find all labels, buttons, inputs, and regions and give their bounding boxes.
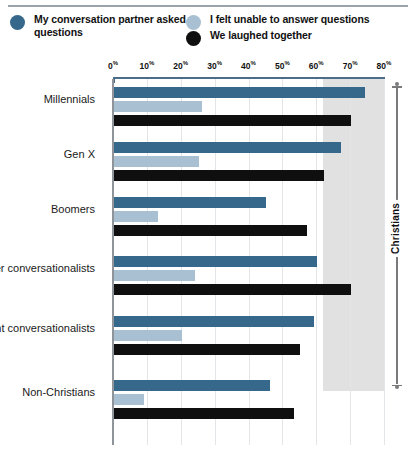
x-tick-label-40: 40% <box>241 60 256 71</box>
x-tick-label-10: 10% <box>139 60 154 71</box>
category-label-non-christians: Non-Christians <box>0 386 95 399</box>
category-label-boomers: Boomers <box>0 203 95 216</box>
x-tick-label-60: 60% <box>309 60 324 71</box>
legend-column-right: I felt unable to answer questions We lau… <box>186 13 411 44</box>
bar-stack <box>114 142 341 181</box>
bracket-dot-top-icon <box>395 82 399 86</box>
bar-asked-questions <box>114 142 341 153</box>
bar-laughed-together <box>114 408 294 419</box>
bar-unable-to-answer <box>114 330 182 341</box>
bar-chart-plot: 0%10%20%30%40%50%60%70%80% MillennialsGe… <box>0 60 413 451</box>
category-label-reluctant-conversationalists: Reluctant conversationalists <box>0 322 95 335</box>
legend-label-conversation-partner-asked: My conversation partner asked questions <box>34 13 190 38</box>
bar-group: Eager conversationalists <box>0 256 413 301</box>
x-tick-label-70: 70% <box>343 60 358 71</box>
bar-stack <box>114 197 307 236</box>
bar-unable-to-answer <box>114 101 202 112</box>
bar-laughed-together <box>114 284 351 295</box>
bar-unable-to-answer <box>114 270 195 281</box>
x-tick-label-30: 30% <box>207 60 222 71</box>
legend-column-left: My conversation partner asked questions <box>10 13 190 41</box>
bar-asked-questions <box>114 316 314 327</box>
bar-group: Millennials <box>0 87 413 132</box>
bar-laughed-together <box>114 170 324 181</box>
bar-laughed-together <box>114 344 300 355</box>
bar-group: Reluctant conversationalists <box>0 316 413 361</box>
bracket-cap-top <box>392 86 402 88</box>
legend-label-unable-to-answer: I felt unable to answer questions <box>210 13 411 26</box>
category-label-eager-conversationalists: Eager conversationalists <box>0 262 95 275</box>
x-tick-label-0: 0% <box>108 60 118 71</box>
bar-asked-questions <box>114 87 365 98</box>
x-tick-label-20: 20% <box>173 60 188 71</box>
legend-item-conversation-partner-asked: My conversation partner asked questions <box>10 13 190 38</box>
bar-asked-questions <box>114 256 317 267</box>
category-label-millennials: Millennials <box>0 93 95 106</box>
legend-item-unable-to-answer: I felt unable to answer questions <box>186 13 411 26</box>
bar-laughed-together <box>114 115 351 126</box>
top-divider-rule <box>8 5 408 7</box>
bar-laughed-together <box>114 225 307 236</box>
bar-unable-to-answer <box>114 211 158 222</box>
x-tick-label-80: 80% <box>377 60 392 71</box>
category-label-gen-x: Gen X <box>0 148 95 161</box>
bar-stack <box>114 256 351 295</box>
bar-stack <box>114 87 365 126</box>
bar-asked-questions <box>114 380 270 391</box>
bar-unable-to-answer <box>114 394 144 405</box>
chart-legend: My conversation partner asked questions … <box>0 13 413 58</box>
bar-unable-to-answer <box>114 156 199 167</box>
legend-label-laughed-together: We laughed together <box>210 29 411 42</box>
x-axis-tick-labels: 0%10%20%30%40%50%60%70%80% <box>0 60 413 76</box>
legend-swatch-dark-blue-icon <box>10 15 25 30</box>
bar-stack <box>114 380 294 419</box>
bar-group: Non-Christians <box>0 380 413 425</box>
bar-stack <box>114 316 314 355</box>
x-tick-label-50: 50% <box>275 60 290 71</box>
x-axis-line <box>113 77 385 79</box>
bar-group: Boomers <box>0 197 413 242</box>
legend-swatch-black-icon <box>186 31 201 46</box>
bar-asked-questions <box>114 197 266 208</box>
legend-item-laughed-together: We laughed together <box>186 29 411 42</box>
bracket-dot-bottom-icon <box>395 385 399 389</box>
bracket-label-christians: Christians <box>390 200 401 257</box>
bar-group: Gen X <box>0 142 413 187</box>
